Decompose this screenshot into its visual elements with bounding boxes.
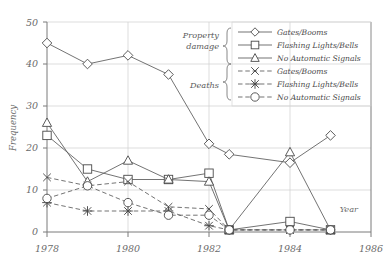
legend-item-deaths-flashing-lights[interactable]: Flashing Lights/Bells xyxy=(238,79,358,89)
x-tick-label-1986: 1986 xyxy=(359,243,383,254)
line-chart: 0 10 20 30 40 50 1978 1980 1982 1984 198… xyxy=(0,0,386,270)
x-tick-marks xyxy=(47,232,371,237)
y-tick-label-10: 10 xyxy=(26,184,38,195)
y-tick-label-50: 50 xyxy=(26,17,38,28)
legend-item-deaths-gates-booms[interactable]: Gates/Booms xyxy=(238,67,328,76)
x-axis-title: Year xyxy=(340,204,359,214)
x-tick-label-1984: 1984 xyxy=(278,243,302,254)
legend-item-deaths-no-signals[interactable]: No Automatic Signals xyxy=(238,93,361,102)
legend-label-0: Gates/Booms xyxy=(277,28,328,37)
gridlines-vertical xyxy=(128,22,290,232)
x-tick-label-1980: 1980 xyxy=(116,243,140,254)
legend-group-label-property-line2: damage xyxy=(186,41,219,51)
chart-container: 0 10 20 30 40 50 1978 1980 1982 1984 198… xyxy=(0,0,386,270)
legend-item-property-flashing-lights[interactable]: Flashing Lights/Bells xyxy=(238,41,358,50)
legend-brace-property xyxy=(223,28,231,64)
legend-brace-deaths xyxy=(223,64,231,100)
markers-property-no-signals xyxy=(42,118,335,234)
y-tick-label-40: 40 xyxy=(25,58,38,69)
y-tick-label-20: 20 xyxy=(25,142,38,153)
legend-item-property-no-signals[interactable]: No Automatic Signals xyxy=(238,54,361,63)
legend-label-2: No Automatic Signals xyxy=(276,54,361,63)
y-axis-title: Frequency xyxy=(8,105,18,152)
y-tick-label-30: 30 xyxy=(26,100,38,111)
legend-label-5: No Automatic Signals xyxy=(276,93,361,102)
legend-item-property-gates-booms[interactable]: Gates/Booms xyxy=(238,28,328,37)
legend-label-3: Gates/Booms xyxy=(277,67,328,76)
legend-group-label-deaths: Deaths xyxy=(189,80,219,90)
legend-label-1: Flashing Lights/Bells xyxy=(276,41,358,50)
legend-label-4: Flashing Lights/Bells xyxy=(276,80,358,89)
y-tick-label-0: 0 xyxy=(32,226,38,237)
x-tick-label-1978: 1978 xyxy=(35,243,59,254)
series-property-no-signals xyxy=(42,118,335,234)
x-tick-label-1982: 1982 xyxy=(197,243,221,254)
legend-group-label-property-line1: Property xyxy=(182,30,220,40)
